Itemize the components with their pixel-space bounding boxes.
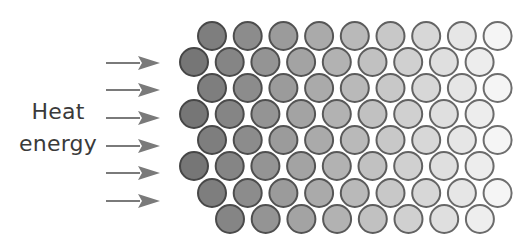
particle xyxy=(287,205,315,233)
particle xyxy=(466,152,494,180)
particle xyxy=(305,126,333,154)
particle xyxy=(341,179,369,207)
arrow-icon xyxy=(106,166,160,180)
particle xyxy=(412,22,440,50)
particle xyxy=(216,205,244,233)
particle xyxy=(341,74,369,102)
particle xyxy=(269,74,297,102)
particle xyxy=(305,179,333,207)
particle xyxy=(216,152,244,180)
arrow-icon xyxy=(106,83,160,97)
particle xyxy=(305,22,333,50)
particle xyxy=(198,22,226,50)
particle xyxy=(234,179,262,207)
particle xyxy=(198,74,226,102)
particle-diagram xyxy=(0,0,530,239)
particle xyxy=(412,179,440,207)
particle xyxy=(412,126,440,154)
particle xyxy=(430,100,458,128)
particle xyxy=(448,74,476,102)
particle xyxy=(377,179,405,207)
particle xyxy=(323,205,351,233)
particle xyxy=(484,22,512,50)
particle xyxy=(269,126,297,154)
particle xyxy=(484,179,512,207)
particle xyxy=(448,179,476,207)
particle xyxy=(287,48,315,76)
particle xyxy=(394,48,422,76)
particle xyxy=(180,152,208,180)
particle xyxy=(234,126,262,154)
particle xyxy=(252,205,280,233)
particle xyxy=(448,126,476,154)
particle xyxy=(251,100,279,128)
particle xyxy=(234,74,262,102)
particle xyxy=(323,152,351,180)
heat-arrows xyxy=(106,56,160,208)
particle xyxy=(341,126,369,154)
particle xyxy=(359,205,387,233)
arrow-icon xyxy=(106,56,160,70)
particle xyxy=(216,100,244,128)
particle xyxy=(377,74,405,102)
particle-lattice xyxy=(180,22,512,233)
particle xyxy=(198,126,226,154)
arrow-icon xyxy=(106,139,160,153)
particle xyxy=(377,22,405,50)
particle xyxy=(269,22,297,50)
particle xyxy=(430,152,458,180)
particle xyxy=(269,179,297,207)
particle xyxy=(430,48,458,76)
particle xyxy=(323,100,351,128)
arrow-icon xyxy=(106,194,160,208)
particle xyxy=(287,100,315,128)
particle xyxy=(484,126,512,154)
particle xyxy=(323,48,351,76)
particle xyxy=(287,152,315,180)
particle xyxy=(198,179,226,207)
particle xyxy=(466,48,494,76)
particle xyxy=(466,100,494,128)
particle xyxy=(251,152,279,180)
particle xyxy=(359,48,387,76)
particle xyxy=(359,152,387,180)
particle xyxy=(448,22,476,50)
particle xyxy=(394,152,422,180)
particle xyxy=(234,22,262,50)
particle xyxy=(180,100,208,128)
particle xyxy=(341,22,369,50)
particle xyxy=(251,48,279,76)
arrow-icon xyxy=(106,111,160,125)
particle xyxy=(394,100,422,128)
particle xyxy=(395,205,423,233)
particle xyxy=(412,74,440,102)
particle xyxy=(359,100,387,128)
particle xyxy=(430,205,458,233)
particle xyxy=(484,74,512,102)
particle xyxy=(216,48,244,76)
particle xyxy=(377,126,405,154)
particle xyxy=(180,48,208,76)
particle xyxy=(466,205,494,233)
particle xyxy=(305,74,333,102)
